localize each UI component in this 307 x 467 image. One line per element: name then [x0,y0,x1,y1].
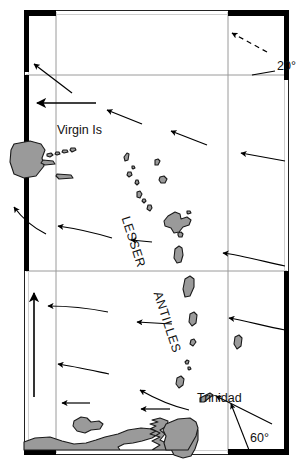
label-latitude-20: 20° [277,60,296,73]
map-figure: Virgin Is Trinidad 20° 60° LESSER ANTILL… [0,0,307,467]
island-saba [135,180,139,185]
island-antigua [159,176,167,183]
island-montserrat [147,205,152,211]
label-trinidad: Trinidad [197,392,242,405]
map-canvas [0,0,307,467]
island-virgin-e [41,160,55,165]
frame-right-bottom-bar [284,271,289,455]
label-virgin-islands: Virgin Is [57,124,102,137]
frame-left-upper [24,10,29,72]
frame-right-lower [284,75,289,80]
island-grenadines-c [188,367,191,370]
island-dominica-small [178,232,183,237]
island-virgin-b [55,152,60,155]
island-marie-galante [187,211,191,214]
island-stbarts [132,166,135,169]
island-dominica [174,246,183,263]
island-virgin-c [62,150,68,153]
label-longitude-60: 60° [250,432,269,445]
island-anegada [56,174,73,179]
frame-top-right [228,10,289,16]
frame-bottom-right [228,449,289,455]
